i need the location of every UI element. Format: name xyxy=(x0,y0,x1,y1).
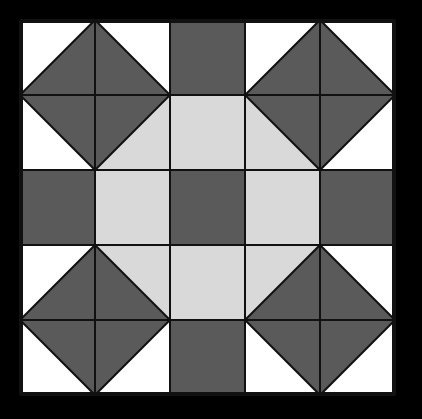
right-edge-bar xyxy=(320,170,395,245)
quilt-block-figure xyxy=(0,0,422,419)
octagon-bottom-cell xyxy=(170,245,245,320)
top-edge-bar xyxy=(170,20,245,95)
octagon-top-cell xyxy=(170,95,245,170)
bottom-edge-bar xyxy=(170,320,245,395)
quilt-diagram-canvas xyxy=(0,0,422,419)
left-edge-bar xyxy=(20,170,95,245)
center-square xyxy=(170,170,245,245)
octagon-left-cell xyxy=(95,170,170,245)
octagon-right-cell xyxy=(245,170,320,245)
